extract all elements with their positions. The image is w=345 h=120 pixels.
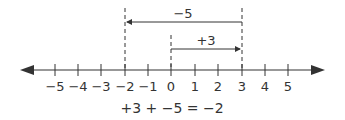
- tick-label: 3: [238, 79, 246, 94]
- tick-label: 0: [167, 79, 175, 94]
- tick-label: −4: [68, 79, 87, 94]
- plus-three-label: +3: [196, 33, 215, 48]
- tick-label: −1: [138, 79, 157, 94]
- tick-labels: −5 −4 −3 −2 −1 0 1 2 3 4 5: [45, 79, 292, 94]
- tick-label: 4: [261, 79, 269, 94]
- tick-label: 1: [191, 79, 199, 94]
- tick-label: −5: [45, 79, 64, 94]
- equation: +3 + −5 = −2: [120, 100, 223, 116]
- right-arrow-icon: [311, 65, 325, 75]
- tick-label: −3: [91, 79, 110, 94]
- number-line-diagram: −5 +3 −5 −4 −3 −2 −1 0 1 2 3 4 5 +3 + −5…: [0, 0, 345, 120]
- left-arrow-icon: [20, 65, 34, 75]
- tick-label: −2: [115, 79, 134, 94]
- minus-five-label: −5: [173, 6, 192, 21]
- tick-label: 2: [214, 79, 222, 94]
- tick-label: 5: [284, 79, 292, 94]
- number-line-axis: [20, 65, 325, 75]
